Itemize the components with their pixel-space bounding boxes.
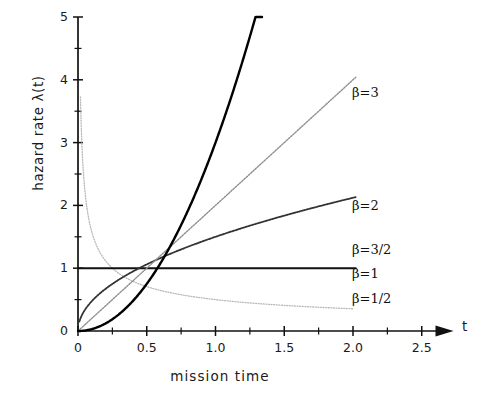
x-axis-arrowhead (436, 326, 454, 337)
axes-layer (73, 17, 454, 337)
x-tick-label: 2.5 (408, 340, 436, 355)
y-tick-label: 3 (46, 135, 68, 150)
x-tick-label: 1.5 (270, 340, 298, 355)
series-label-5: β=3 (352, 85, 379, 100)
series-layer (78, 17, 356, 331)
series-curve-1 (80, 97, 353, 309)
y-tick-label: 4 (46, 72, 68, 87)
chart-figure: hazard rate λ(t) mission time 00.51.01.5… (0, 0, 489, 401)
series-label-1: β=1/2 (352, 291, 391, 306)
series-curve-5 (78, 17, 262, 331)
y-axis-label: hazard rate λ(t) (30, 33, 46, 233)
x-axis-label: mission time (100, 368, 340, 384)
y-tick-label: 1 (46, 260, 68, 275)
y-tick-label: 2 (46, 197, 68, 212)
x-tick-label: 2.0 (339, 340, 367, 355)
series-label-3: β=3/2 (352, 242, 391, 257)
x-tick-label: 0.5 (133, 340, 161, 355)
x-tick-label: 1.0 (202, 340, 230, 355)
series-curve-4 (78, 77, 356, 331)
y-tick-label: 5 (46, 9, 68, 24)
series-label-4: β=2 (352, 198, 379, 213)
y-tick-label: 0 (46, 323, 68, 338)
x-axis-symbol: t (462, 318, 467, 334)
series-curve-3 (79, 197, 355, 321)
x-tick-label: 0 (64, 340, 92, 355)
series-label-2: β=1 (352, 266, 379, 281)
